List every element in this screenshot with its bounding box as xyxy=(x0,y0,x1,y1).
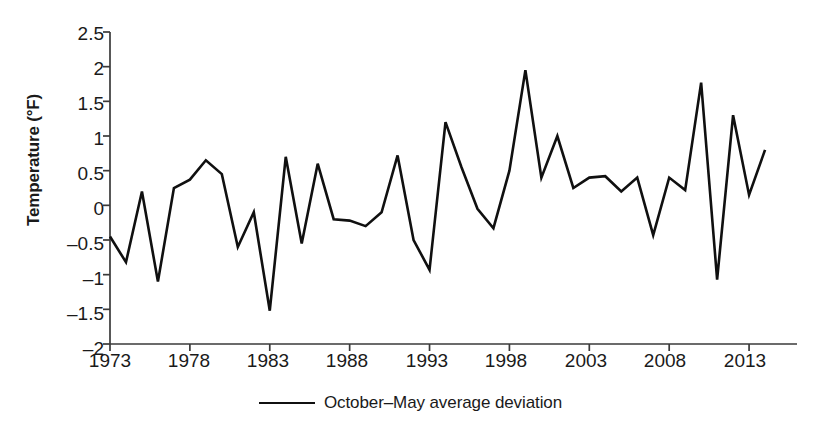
axis-lines xyxy=(110,32,797,344)
plot-area xyxy=(0,0,821,442)
x-axis-ticks xyxy=(110,344,749,351)
temperature-deviation-chart: Temperature (°F) 2.5 2 1.5 1 0.5 0 –0.5 … xyxy=(0,0,821,442)
y-axis-ticks xyxy=(103,32,110,344)
data-series-line xyxy=(110,70,765,311)
legend-line-swatch xyxy=(259,402,315,404)
chart-legend: October–May average deviation xyxy=(0,393,821,413)
legend-label: October–May average deviation xyxy=(324,393,562,413)
